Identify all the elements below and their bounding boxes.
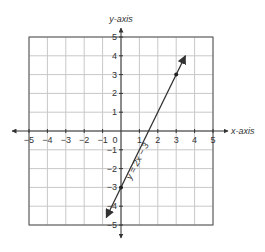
y-tick-label: 2 bbox=[112, 88, 117, 98]
y-tick-label: 3 bbox=[112, 70, 117, 80]
x-tick-label: 4 bbox=[192, 135, 197, 145]
y-tick-label: 1 bbox=[112, 107, 117, 117]
x-tick-labels: −5−4−3−2−1012345 bbox=[24, 135, 216, 145]
x-tick-label: −1 bbox=[97, 135, 107, 145]
x-tick-label: 2 bbox=[155, 135, 160, 145]
line-equation-label: y = 2x − 3 bbox=[124, 141, 151, 182]
y-tick-label: 4 bbox=[112, 51, 117, 61]
x-axis-label: x-axis bbox=[230, 126, 255, 136]
x-tick-label: −3 bbox=[61, 135, 71, 145]
y-tick-label: 5 bbox=[112, 32, 117, 42]
y-tick-label: −3 bbox=[107, 182, 117, 192]
x-tick-label: 0 bbox=[112, 135, 117, 145]
x-tick-label: 3 bbox=[174, 135, 179, 145]
x-tick-label: 5 bbox=[210, 135, 215, 145]
data-point bbox=[174, 73, 178, 77]
coordinate-plane: −5−4−3−2−1012345 54321−1−2−3−4−5 x-axis … bbox=[0, 0, 265, 252]
x-tick-label: −4 bbox=[42, 135, 52, 145]
y-tick-label: −5 bbox=[107, 220, 117, 230]
x-tick-label: −5 bbox=[24, 135, 34, 145]
y-axis-label: y-axis bbox=[108, 14, 133, 24]
y-tick-label: −2 bbox=[107, 164, 117, 174]
data-point bbox=[119, 185, 123, 189]
y-tick-label: −1 bbox=[107, 145, 117, 155]
x-tick-label: −2 bbox=[79, 135, 89, 145]
